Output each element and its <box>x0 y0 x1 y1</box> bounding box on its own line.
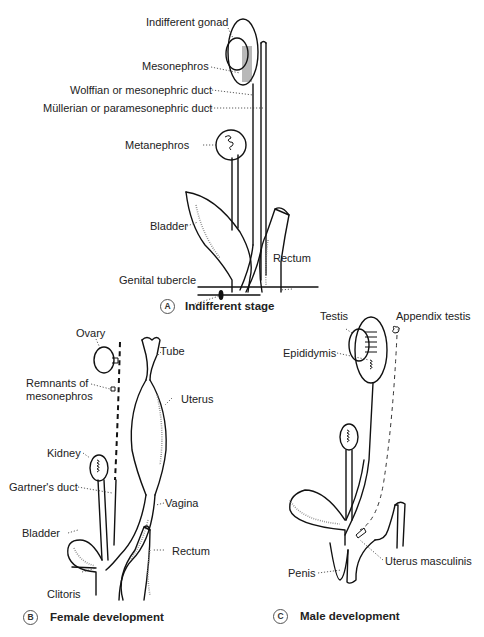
label-rectum-a: Rectum <box>273 252 311 264</box>
label-rectum-b: Rectum <box>172 545 210 557</box>
panel-a-badge: A <box>160 299 175 314</box>
label-genital-tubercle: Genital tubercle <box>119 274 196 286</box>
label-uterus-masculinis: Uterus masculinis <box>385 555 472 567</box>
panel-b-badge: B <box>23 610 38 625</box>
label-wolffian-duct: Wolffian or mesonephric duct <box>70 84 212 96</box>
label-remnants-line1: Remnants of <box>26 377 88 389</box>
embryology-figure: Indifferent gonad Mesonephros Wolffian o… <box>0 0 484 637</box>
label-metanephros: Metanephros <box>125 139 189 151</box>
label-epididymis: Epididymis <box>283 347 336 359</box>
panel-b-caption: Female development <box>50 611 164 623</box>
label-vagina: Vagina <box>165 497 198 509</box>
label-remnants-line2: mesonephros <box>26 390 93 402</box>
label-tube: Tube <box>160 345 185 357</box>
label-uterus: Uterus <box>181 393 213 405</box>
label-gartners-duct: Gartner's duct <box>9 481 78 493</box>
label-mesonephros: Mesonephros <box>142 60 209 72</box>
label-testis: Testis <box>320 310 348 322</box>
label-kidney: Kidney <box>47 447 81 459</box>
label-indifferent-gonad: Indifferent gonad <box>146 16 228 28</box>
panel-c-badge: C <box>273 609 288 624</box>
label-appendix-testis: Appendix testis <box>396 310 471 322</box>
label-bladder-a: Bladder <box>150 220 188 232</box>
label-penis: Penis <box>288 567 316 579</box>
label-mullerian-duct: Müllerian or paramesonephric duct <box>43 102 212 114</box>
label-ovary: Ovary <box>76 327 105 339</box>
label-clitoris: Clitoris <box>47 588 81 600</box>
panel-c-caption: Male development <box>300 610 400 622</box>
panel-a-caption: Indifferent stage <box>185 300 274 312</box>
label-bladder-b: Bladder <box>22 527 60 539</box>
